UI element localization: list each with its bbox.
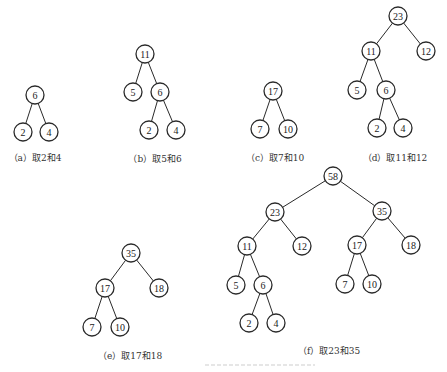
node-weight-label: 7 xyxy=(258,124,263,135)
tree-edge xyxy=(360,253,369,275)
node-weight-label: 17 xyxy=(352,240,362,251)
tree-node: 5 xyxy=(348,81,366,99)
panel-d-edges xyxy=(360,23,420,120)
tree-edge xyxy=(283,181,326,208)
node-weight-label: 7 xyxy=(90,322,95,333)
panel-d-nodes: 2311125624 xyxy=(348,7,435,137)
tree-edge xyxy=(26,104,32,124)
panel-c-edges xyxy=(263,99,285,120)
tree-edge xyxy=(376,23,392,44)
tree-node: 2 xyxy=(140,121,158,139)
tree-node: 6 xyxy=(377,81,395,99)
node-weight-label: 11 xyxy=(242,241,252,252)
tree-edge xyxy=(152,101,158,122)
tree-edge xyxy=(108,296,117,318)
tree-edge xyxy=(340,181,374,206)
tree-node: 6 xyxy=(26,86,44,104)
node-weight-label: 5 xyxy=(355,85,360,96)
tree-edge xyxy=(379,99,384,119)
tree-node: 17 xyxy=(264,82,282,100)
node-weight-label: 7 xyxy=(343,279,348,290)
diagram-canvas: 6241156241771023111256243517187105823351… xyxy=(0,0,447,372)
node-weight-label: 4 xyxy=(47,127,52,138)
tree-node: 4 xyxy=(167,121,185,139)
node-weight-label: 2 xyxy=(21,127,26,138)
caption-panel-f: （f）取23和35 xyxy=(298,344,360,357)
tree-node: 7 xyxy=(336,275,354,293)
tree-node: 35 xyxy=(373,202,391,220)
tree-node: 7 xyxy=(251,120,269,138)
tree-edge xyxy=(404,23,421,44)
tree-edge xyxy=(136,63,143,84)
tree-edge xyxy=(276,99,284,120)
node-weight-label: 10 xyxy=(115,322,125,333)
tree-node: 17 xyxy=(348,236,366,254)
tree-node: 5 xyxy=(227,276,245,294)
tree-node: 7 xyxy=(83,318,101,336)
tree-node: 4 xyxy=(267,314,285,332)
tree-edge xyxy=(266,294,273,315)
node-weight-label: 35 xyxy=(126,248,136,259)
tree-node: 18 xyxy=(402,236,420,254)
edges-layer xyxy=(26,23,421,319)
node-weight-label: 23 xyxy=(393,11,403,22)
tree-node: 10 xyxy=(363,275,381,293)
node-weight-label: 4 xyxy=(174,125,179,136)
panel-e-nodes: 351718710 xyxy=(83,244,168,336)
tree-edge xyxy=(281,219,297,239)
panel-a-nodes: 624 xyxy=(14,86,58,141)
tree-edge xyxy=(137,260,154,281)
node-weight-label: 6 xyxy=(384,85,389,96)
panel-f-nodes: 582335111217185671024 xyxy=(227,167,420,332)
node-weight-label: 18 xyxy=(406,240,416,251)
node-weight-label: 4 xyxy=(274,318,279,329)
caption-panel-b: （b）取5和6 xyxy=(128,152,181,165)
tree-edge xyxy=(252,293,260,314)
node-weight-label: 2 xyxy=(147,125,152,136)
tree-node: 12 xyxy=(293,237,311,255)
caption-panel-a: （a）取2和4 xyxy=(9,151,62,164)
tree-edge xyxy=(250,254,259,276)
panel-b-nodes: 115624 xyxy=(124,45,185,139)
tree-node: 18 xyxy=(150,279,168,297)
tree-edge xyxy=(348,254,355,276)
tree-node: 17 xyxy=(96,279,114,297)
tree-edge xyxy=(163,100,172,121)
tree-node: 2 xyxy=(368,119,386,137)
tree-node: 6 xyxy=(151,83,169,101)
panel-a-edges xyxy=(26,103,46,123)
tree-node: 23 xyxy=(389,7,407,25)
tree-edge xyxy=(238,255,244,277)
tree-node: 6 xyxy=(254,276,272,294)
tree-edge xyxy=(390,98,400,120)
node-weight-label: 12 xyxy=(421,46,431,57)
tree-edge xyxy=(360,59,368,81)
faded-figure-caption xyxy=(205,364,315,366)
node-weight-label: 5 xyxy=(131,87,136,98)
tree-node: 2 xyxy=(240,314,258,332)
node-weight-label: 6 xyxy=(33,90,38,101)
caption-panel-e: （e）取17和18 xyxy=(98,349,162,362)
node-weight-label: 10 xyxy=(367,279,377,290)
tree-node: 12 xyxy=(417,42,435,60)
node-weight-label: 5 xyxy=(234,280,239,291)
tree-edge xyxy=(388,218,405,238)
tree-node: 5 xyxy=(124,83,142,101)
node-weight-label: 11 xyxy=(140,49,150,60)
tree-node: 2 xyxy=(14,123,32,141)
tree-node: 11 xyxy=(136,45,154,63)
tree-edge xyxy=(253,219,270,239)
tree-node: 11 xyxy=(362,42,380,60)
tree-edge xyxy=(263,100,270,121)
node-weight-label: 2 xyxy=(247,318,252,329)
node-weight-label: 58 xyxy=(328,171,338,182)
tree-edge xyxy=(374,59,383,81)
node-weight-label: 18 xyxy=(154,283,164,294)
tree-node: 4 xyxy=(394,119,412,137)
node-weight-label: 17 xyxy=(100,283,110,294)
tree-node: 35 xyxy=(122,244,140,262)
node-weight-label: 35 xyxy=(377,206,387,217)
tree-node: 11 xyxy=(238,237,256,255)
tree-node: 23 xyxy=(266,203,284,221)
tree-node: 10 xyxy=(279,120,297,138)
